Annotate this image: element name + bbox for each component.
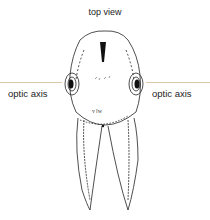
squid-illustration: v lw [0,0,210,220]
svg-text:lw: lw [96,108,103,114]
svg-text:v: v [92,108,95,114]
